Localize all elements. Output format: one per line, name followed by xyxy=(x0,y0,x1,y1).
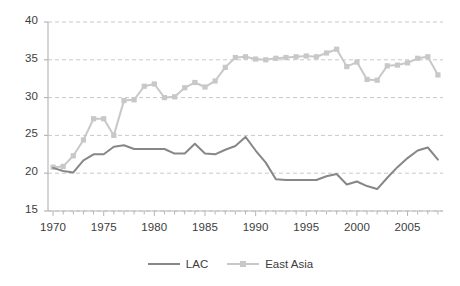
y-tick-label: 25 xyxy=(12,127,38,139)
series-marker-east-asia xyxy=(182,85,187,90)
series-marker-east-asia xyxy=(375,78,380,83)
series-marker-east-asia xyxy=(172,94,177,99)
x-tick-label: 1970 xyxy=(33,221,73,233)
series-marker-east-asia xyxy=(192,80,197,85)
x-tick-label: 1995 xyxy=(286,221,326,233)
x-tick-label: 2005 xyxy=(388,221,428,233)
series-marker-east-asia xyxy=(152,81,157,86)
series-marker-east-asia xyxy=(364,77,369,82)
series-marker-east-asia xyxy=(111,133,116,138)
series-marker-east-asia xyxy=(435,72,440,77)
y-tick-label: 15 xyxy=(12,203,38,215)
chart-plot-area xyxy=(0,0,460,286)
series-marker-east-asia xyxy=(405,60,410,65)
line-chart: 152025303540 197019751980198519901995200… xyxy=(0,0,460,286)
series-marker-east-asia xyxy=(294,54,299,59)
series-marker-east-asia xyxy=(71,153,76,158)
series-marker-east-asia xyxy=(385,63,390,68)
y-tick-label: 35 xyxy=(12,52,38,64)
series-marker-east-asia xyxy=(202,84,207,89)
series-marker-east-asia xyxy=(243,54,248,59)
series-marker-east-asia xyxy=(162,95,167,100)
series-marker-east-asia xyxy=(314,54,319,59)
x-tick-label: 1990 xyxy=(236,221,276,233)
series-marker-east-asia xyxy=(131,97,136,102)
x-tick-label: 1975 xyxy=(84,221,124,233)
legend-label: LAC xyxy=(186,258,208,270)
series-marker-east-asia xyxy=(223,65,228,70)
series-marker-east-asia xyxy=(273,56,278,61)
series-marker-east-asia xyxy=(81,137,86,142)
series-marker-east-asia xyxy=(283,55,288,60)
series-marker-east-asia xyxy=(415,56,420,61)
legend-label: East Asia xyxy=(265,258,313,270)
y-tick-label: 40 xyxy=(12,14,38,26)
series-marker-east-asia xyxy=(61,164,66,169)
series-marker-east-asia xyxy=(263,57,268,62)
series-marker-east-asia xyxy=(324,50,329,55)
series-marker-east-asia xyxy=(91,116,96,121)
legend-swatch-line xyxy=(147,258,181,270)
series-marker-east-asia xyxy=(253,56,258,61)
series-marker-east-asia xyxy=(354,59,359,64)
series-marker-east-asia xyxy=(395,62,400,67)
legend-item-lac[interactable]: LAC xyxy=(147,258,208,270)
series-marker-east-asia xyxy=(142,84,147,89)
series-marker-east-asia xyxy=(101,116,106,121)
x-tick-label: 1980 xyxy=(134,221,174,233)
legend-swatch-line-with-marker xyxy=(226,258,260,270)
x-tick-label: 2000 xyxy=(337,221,377,233)
series-line-lac xyxy=(53,137,438,189)
series-marker-east-asia xyxy=(213,78,218,83)
x-tick-label: 1985 xyxy=(185,221,225,233)
chart-legend: LACEast Asia xyxy=(0,258,460,270)
series-marker-east-asia xyxy=(344,64,349,69)
y-tick-label: 30 xyxy=(12,90,38,102)
series-marker-east-asia xyxy=(334,47,339,52)
series-marker-east-asia xyxy=(121,98,126,103)
series-marker-east-asia xyxy=(233,55,238,60)
series-marker-east-asia xyxy=(304,53,309,58)
y-tick-label: 20 xyxy=(12,165,38,177)
legend-item-east-asia[interactable]: East Asia xyxy=(226,258,313,270)
series-marker-east-asia xyxy=(425,54,430,59)
